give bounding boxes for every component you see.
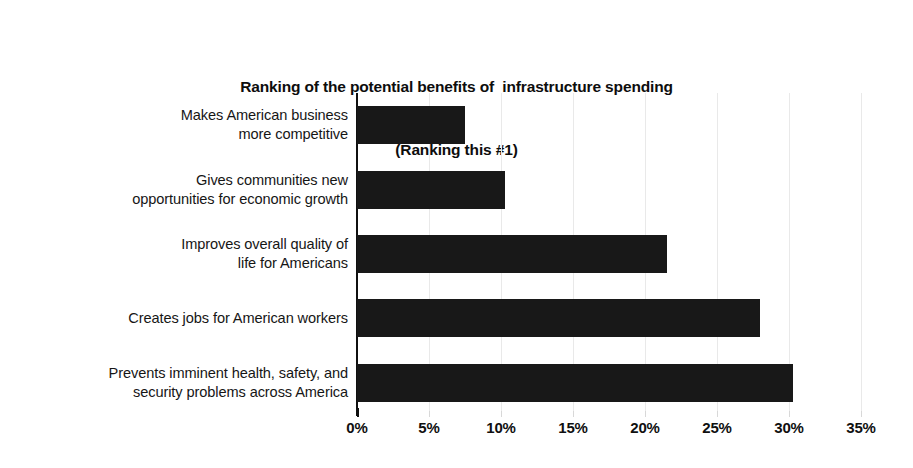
x-axis-tick-label: 25% [687,419,747,436]
x-axis-tick-mark [501,411,502,417]
x-axis-tick-labels: 0%5%10%15%20%25%30%35% [357,417,861,443]
category-label-line: opportunities for economic growth [48,190,348,209]
x-axis-tick-mark [357,408,359,417]
bar [357,171,505,209]
x-axis-tick-label: 35% [831,419,891,436]
gridline [861,93,862,415]
category-label: Creates jobs for American workers [48,309,348,328]
x-axis-tick-mark [861,411,862,417]
bar [357,106,465,144]
category-label-line: more competitive [48,125,348,144]
category-label: Prevents imminent health, safety, andsec… [48,364,348,402]
x-axis-tick-label: 10% [471,419,531,436]
plot-area [357,93,861,415]
category-axis-labels: Makes American businessmore competitiveG… [42,93,348,415]
category-label: Improves overall quality oflife for Amer… [48,235,348,273]
category-label: Makes American businessmore competitive [48,106,348,144]
category-label-line: Gives communities new [48,171,348,190]
x-axis-tick-mark [573,411,574,417]
category-label-line: security problems across America [48,383,348,402]
x-axis-tick-mark [429,411,430,417]
x-axis-tick-mark [789,411,790,417]
x-axis-tick-label: 15% [543,419,603,436]
bar [357,235,667,273]
x-axis-tick-mark [717,411,718,417]
x-axis-tick-mark [645,411,646,417]
category-label-line: Creates jobs for American workers [48,309,348,328]
bar [357,364,793,402]
x-axis-tick-label: 0% [327,419,387,436]
category-label-line: life for Americans [48,254,348,273]
category-label-line: Improves overall quality of [48,235,348,254]
bar-chart: Ranking of the potential benefits of inf… [0,0,913,468]
x-axis-tick-label: 5% [399,419,459,436]
category-label-line: Prevents imminent health, safety, and [48,364,348,383]
x-axis-tick-label: 20% [615,419,675,436]
category-label: Gives communities newopportunities for e… [48,171,348,209]
bar [357,299,760,337]
x-axis-tick-label: 30% [759,419,819,436]
category-label-line: Makes American business [48,106,348,125]
